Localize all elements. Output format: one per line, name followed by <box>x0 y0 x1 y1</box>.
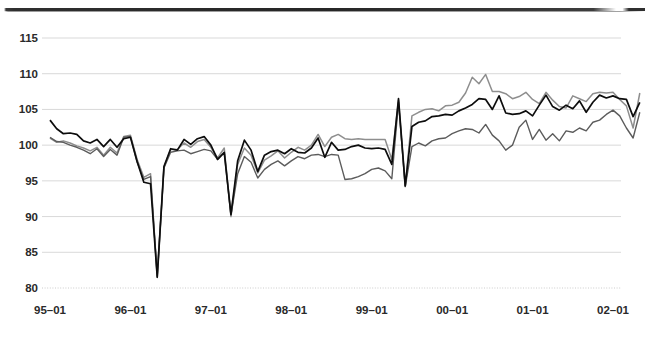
y-axis-tick-label: 95 <box>25 175 38 187</box>
x-axis-tick-label: 99–01 <box>356 304 389 316</box>
series-3-gray-lower <box>50 102 640 276</box>
y-axis-labels-group: 80859095100105110115 <box>19 32 39 294</box>
x-axis-tick-label: 02–01 <box>597 304 630 316</box>
y-axis-tick-label: 100 <box>19 139 38 151</box>
x-axis-tick-label: 98–01 <box>275 304 308 316</box>
data-series-group <box>50 74 640 277</box>
y-axis-tick-label: 85 <box>25 246 38 258</box>
figure-container: 80859095100105110115 95–0196–0197–0198–0… <box>0 0 645 360</box>
x-axis-labels-group: 95–0196–0197–0198–0199–0100–0101–0102–01 <box>34 304 630 316</box>
chart-plot-area: 80859095100105110115 95–0196–0197–0198–0… <box>0 0 645 330</box>
y-axis-tick-label: 90 <box>25 211 38 223</box>
x-axis-tick-label: 96–01 <box>114 304 147 316</box>
y-axis-tick-label: 105 <box>19 103 39 115</box>
x-axis-tick-label: 97–01 <box>195 304 228 316</box>
series-1-black <box>50 95 640 277</box>
x-axis-tick-label: 01–01 <box>517 304 550 316</box>
gridlines-group <box>42 38 621 288</box>
x-axis-tick-label: 95–01 <box>34 304 67 316</box>
y-axis-tick-label: 110 <box>19 68 38 80</box>
y-axis-tick-label: 115 <box>19 32 38 44</box>
x-axis-tick-label: 00–01 <box>436 304 469 316</box>
y-axis-tick-label: 80 <box>25 282 38 294</box>
line-chart-svg: 80859095100105110115 95–0196–0197–0198–0… <box>0 0 645 330</box>
